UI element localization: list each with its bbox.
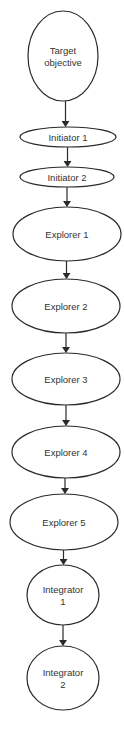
node-label: Explorer 2 (44, 301, 87, 312)
node-target: Targetobjective (28, 11, 98, 101)
node-label: Explorer 5 (42, 517, 85, 528)
node-integ1: Integrator1 (27, 565, 99, 625)
node-init2: Initiator 2 (20, 167, 114, 187)
node-exp4: Explorer 4 (12, 426, 120, 478)
node-exp3: Explorer 3 (12, 353, 120, 405)
node-label: objective (44, 57, 82, 68)
node-integ2: Integrator2 (27, 646, 99, 710)
flowchart-diagram: TargetobjectiveInitiator 1Initiator 2Exp… (0, 0, 124, 731)
node-label: 2 (60, 679, 65, 690)
node-exp1: Explorer 1 (13, 207, 121, 261)
node-exp5: Explorer 5 (10, 494, 118, 550)
node-label: 1 (60, 596, 65, 607)
node-label: Initiator 1 (48, 132, 87, 143)
node-label: Target (50, 45, 77, 56)
node-label: Explorer 4 (44, 447, 87, 458)
node-label: Integrator (43, 667, 84, 678)
node-exp2: Explorer 2 (12, 279, 120, 333)
node-label: Initiator 2 (47, 172, 86, 183)
node-label: Explorer 3 (44, 374, 87, 385)
node-label: Integrator (43, 584, 84, 595)
node-init1: Initiator 1 (20, 127, 116, 147)
node-label: Explorer 1 (45, 229, 88, 240)
